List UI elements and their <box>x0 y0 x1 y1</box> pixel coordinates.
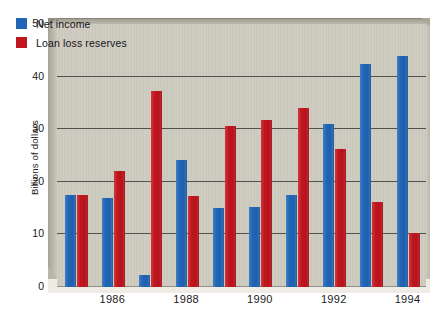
bar-loan-loss-reserves-1993 <box>372 202 383 287</box>
bar-loan-loss-reserves-1992 <box>335 149 346 287</box>
bar-loan-loss-reserves-1987 <box>151 91 162 287</box>
bar-net-income-1993 <box>360 64 371 287</box>
y-tick-label: 40 <box>20 70 44 82</box>
y-tick-label: 20 <box>20 175 44 187</box>
x-tick-label: 1986 <box>89 293 135 305</box>
bar-net-income-1992 <box>323 124 334 287</box>
legend-swatch-icon <box>16 37 27 48</box>
legend-label: Loan loss reserves <box>36 37 127 49</box>
bar-loan-loss-reserves-1990 <box>261 120 272 287</box>
y-tick-label: 0 <box>20 280 44 292</box>
bar-net-income-1991 <box>286 195 297 287</box>
bar-chart-figure: Billions of dollars 01020304050 Net inco… <box>0 0 440 320</box>
legend-item: Net income <box>16 14 127 33</box>
x-tick-label: 1992 <box>311 293 357 305</box>
bar-net-income-1989 <box>213 208 224 287</box>
bar-net-income-1990 <box>249 207 260 287</box>
legend-label: Net income <box>36 18 91 30</box>
frame-left-wall <box>48 18 57 293</box>
plot-area <box>57 24 426 287</box>
y-tick-label: 30 <box>20 122 44 134</box>
bar-loan-loss-reserves-1985 <box>77 195 88 287</box>
legend: Net incomeLoan loss reserves <box>16 14 127 52</box>
bar-loan-loss-reserves-1994 <box>409 233 420 287</box>
legend-swatch-icon <box>16 18 27 29</box>
bar-net-income-1986 <box>102 198 113 287</box>
x-tick-label: 1990 <box>237 293 283 305</box>
x-tick-label: 1994 <box>385 293 431 305</box>
bar-loan-loss-reserves-1988 <box>188 196 199 287</box>
frame-right-wall <box>426 26 430 279</box>
bar-net-income-1985 <box>65 195 76 287</box>
bar-net-income-1987 <box>139 275 150 287</box>
bar-series-container <box>57 24 426 287</box>
bar-net-income-1988 <box>176 160 187 287</box>
y-tick-label: 10 <box>20 227 44 239</box>
bar-net-income-1994 <box>397 56 408 287</box>
bar-loan-loss-reserves-1991 <box>298 108 309 287</box>
legend-item: Loan loss reserves <box>16 33 127 52</box>
x-axis-tick-labels: 19861988199019921994 <box>57 293 426 315</box>
x-tick-label: 1988 <box>163 293 209 305</box>
bar-loan-loss-reserves-1986 <box>114 171 125 287</box>
bar-loan-loss-reserves-1989 <box>225 126 236 287</box>
